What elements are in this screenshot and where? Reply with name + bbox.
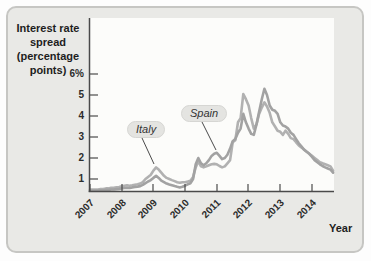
- y-tick-label-6: 6%: [50, 67, 84, 80]
- y-axis-ticks: [90, 74, 98, 179]
- y-tick-label-5: 5: [50, 88, 84, 101]
- x-axis-title: Year: [329, 222, 352, 234]
- y-tick-label-4: 4: [50, 109, 84, 122]
- spain-callout-line: [202, 122, 216, 150]
- y-tick-label-1: 1: [50, 172, 84, 185]
- spain-series-label: Spain: [181, 105, 227, 122]
- y-tick-label-2: 2: [50, 151, 84, 164]
- italy-series-label: Italy: [127, 121, 165, 138]
- y-tick-label-3: 3: [50, 130, 84, 143]
- italy-callout-line: [142, 138, 154, 164]
- series-layer: [90, 89, 333, 191]
- figure-canvas: Interest rate spread (percentage points)…: [0, 0, 371, 261]
- series-line-spain: [90, 89, 333, 191]
